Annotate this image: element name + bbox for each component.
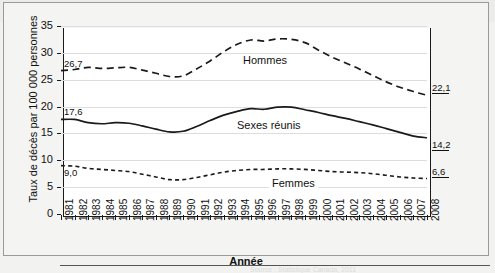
source-note: Source : Statistique Canada, 2011	[250, 266, 356, 273]
start-value-sexes-reunis: 17,6	[64, 106, 83, 117]
end-value-femmes: 6,6	[432, 166, 445, 177]
chart-page: SantéPublique Taux de décès par 100 000 …	[0, 0, 495, 273]
series-label-sexes-reunis: Sexes réunis	[234, 119, 304, 131]
series-label-femmes: Femmes	[269, 177, 318, 189]
series-label-hommes: Hommes	[240, 54, 290, 66]
end-value-underline	[432, 177, 449, 178]
start-value-femmes: 9,0	[64, 167, 77, 178]
start-value-hommes: 26,7	[64, 58, 83, 69]
end-value-underline	[432, 93, 449, 94]
end-value-hommes: 22,1	[432, 82, 451, 93]
line-hommes	[61, 39, 427, 96]
end-value-sexes-reunis: 14,2	[432, 139, 451, 150]
figure-frame: Taux de décès par 100 000 personnes 0510…	[3, 2, 489, 256]
end-value-underline	[432, 150, 449, 151]
line-femmes	[61, 166, 427, 180]
